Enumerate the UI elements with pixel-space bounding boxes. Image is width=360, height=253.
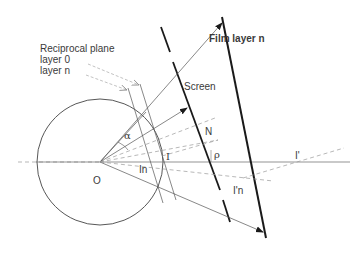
reciprocal-space-diagram: Reciprocal plane layer 0 layer n Film la… (0, 0, 360, 253)
alpha-reference-line (100, 112, 146, 162)
dashed-ray-to-i-prime (162, 140, 218, 156)
label-in: In (139, 164, 147, 175)
label-reciprocal-plane: Reciprocal plane (40, 43, 115, 54)
screen-line-bottom (223, 200, 230, 222)
label-origin: O (93, 175, 101, 186)
alpha-arc (118, 142, 128, 150)
label-n: N (205, 126, 212, 137)
pointer-layer-0 (88, 64, 139, 85)
reciprocal-plane-layer-n (140, 84, 176, 200)
label-i-prime: I' (295, 150, 300, 161)
label-alpha: α (124, 130, 131, 141)
vector-to-film-top (100, 23, 222, 162)
vector-to-film-bottom (100, 162, 263, 232)
label-film-layer-n: Film layer n (209, 33, 265, 44)
label-layer-n: layer n (40, 65, 70, 76)
dashed-ray-i-prime-n-to-i-prime (243, 148, 344, 178)
reciprocal-plane-layer-0 (128, 88, 163, 203)
film-layer-n-line (222, 17, 266, 238)
screen-line-top (161, 27, 170, 52)
label-i-prime-n: I'n (233, 185, 243, 196)
dashed-ray-lower (100, 162, 273, 181)
label-i: I (166, 151, 170, 162)
label-rho: ρ (214, 149, 220, 160)
label-screen: Screen (184, 81, 216, 92)
label-layer-0: layer 0 (40, 54, 70, 65)
